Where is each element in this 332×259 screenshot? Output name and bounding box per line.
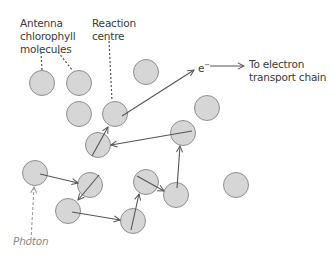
photon-label: Photon (13, 235, 48, 248)
photon-target-molecule (23, 161, 48, 186)
destination-label: To electron transport chain (249, 58, 326, 84)
chlorophyll-molecule (134, 170, 159, 195)
chlorophyll-molecule (195, 96, 220, 121)
electron-label: e− (198, 59, 210, 75)
transfer-arrow (177, 146, 180, 188)
antenna-molecule (67, 71, 92, 96)
chlorophyll-molecule (67, 102, 92, 127)
antenna-label: Antenna chlorophyll molecules (20, 17, 75, 56)
electron-charge: − (204, 61, 210, 69)
reaction-centre-label: Reaction centre (92, 17, 136, 43)
antenna-molecule (30, 71, 55, 96)
chlorophyll-molecule (224, 173, 249, 198)
reaction-centre-molecule (103, 102, 128, 127)
chlorophyll-molecule (134, 60, 159, 85)
chlorophyll-molecule (56, 199, 81, 224)
reaction-centre-pointer (109, 41, 112, 101)
chlorophyll-molecule (164, 183, 189, 208)
photon-arrow (31, 187, 34, 240)
